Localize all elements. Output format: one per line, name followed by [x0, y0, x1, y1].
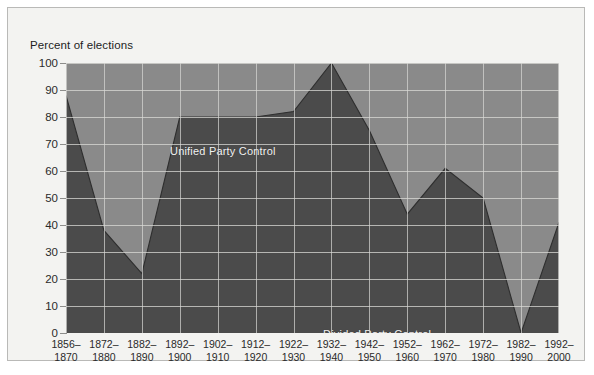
chart-figure: Percent of elections 0102030405060708090… — [7, 7, 585, 361]
gridline-vertical — [142, 63, 143, 333]
x-axis-tick-label: 1932–1940 — [317, 338, 346, 363]
x-tick-line-2: 1940 — [317, 351, 346, 364]
gridline-vertical — [180, 63, 181, 333]
y-axis-tick-label: 30 — [45, 246, 58, 258]
y-axis-tick-label: 100 — [39, 57, 58, 69]
x-axis-tick-label: 1952–1960 — [393, 338, 422, 363]
x-tick-line-2: 1950 — [355, 351, 384, 364]
x-tick-line-2: 1960 — [393, 351, 422, 364]
gridline-horizontal — [66, 225, 559, 226]
x-axis-tick-label: 1982–1990 — [506, 338, 535, 363]
x-tick-line-2: 1980 — [469, 351, 498, 364]
x-tick-line-2: 1930 — [279, 351, 308, 364]
x-tick-line-1: 1912– — [241, 338, 270, 351]
x-axis-tick-label: 1892–1900 — [165, 338, 194, 363]
gridline-horizontal — [66, 252, 559, 253]
x-tick-line-1: 1872– — [89, 338, 118, 351]
gridline-vertical — [407, 63, 408, 333]
gridline-vertical — [558, 63, 559, 333]
x-tick-line-2: 1890 — [127, 351, 156, 364]
gridline-vertical — [369, 63, 370, 333]
gridline-vertical — [445, 63, 446, 333]
x-axis-tick-labels: 1856–18701872–18801882–18901892–19001902… — [66, 338, 559, 370]
x-tick-line-2: 1920 — [241, 351, 270, 364]
y-axis-tick-label: 10 — [45, 300, 58, 312]
gridline-vertical — [256, 63, 257, 333]
gridline-horizontal — [66, 198, 559, 199]
x-axis-tick-label: 1856–1870 — [51, 338, 80, 363]
x-tick-line-1: 1942– — [355, 338, 384, 351]
x-tick-line-2: 1870 — [51, 351, 80, 364]
x-tick-line-1: 1952– — [393, 338, 422, 351]
gridline-vertical — [483, 63, 484, 333]
gridline-vertical — [521, 63, 522, 333]
x-axis-tick-label: 1912–1920 — [241, 338, 270, 363]
gridline-horizontal — [66, 171, 559, 172]
gridline-horizontal — [66, 63, 559, 64]
x-axis-tick-label: 1922–1930 — [279, 338, 308, 363]
x-tick-line-1: 1856– — [51, 338, 80, 351]
x-axis-tick-label: 1882–1890 — [127, 338, 156, 363]
x-tick-line-2: 1900 — [165, 351, 194, 364]
x-tick-line-2: 1970 — [431, 351, 460, 364]
gridline-horizontal — [66, 117, 559, 118]
gridline-horizontal — [66, 144, 559, 145]
x-tick-line-1: 1982– — [506, 338, 535, 351]
x-tick-line-1: 1932– — [317, 338, 346, 351]
gridline-vertical — [331, 63, 332, 333]
x-tick-line-1: 1902– — [203, 338, 232, 351]
x-tick-line-1: 1992– — [544, 338, 573, 351]
unified-party-control-label: Unified Party Control — [170, 145, 276, 157]
y-axis-tick-label: 20 — [45, 273, 58, 285]
y-axis-title: Percent of elections — [30, 39, 133, 51]
x-tick-line-1: 1962– — [431, 338, 460, 351]
gridline-vertical — [66, 63, 67, 333]
x-axis-tick-label: 1962–1970 — [431, 338, 460, 363]
x-tick-line-2: 1880 — [89, 351, 118, 364]
x-tick-line-2: 1910 — [203, 351, 232, 364]
y-axis-tick-label: 50 — [45, 192, 58, 204]
x-tick-line-2: 2000 — [544, 351, 573, 364]
y-axis-tick-label: 70 — [45, 138, 58, 150]
y-axis-tick-mark — [60, 333, 67, 334]
y-axis-tick-label: 40 — [45, 219, 58, 231]
gridline-horizontal — [66, 306, 559, 307]
x-tick-line-1: 1922– — [279, 338, 308, 351]
x-tick-line-1: 1882– — [127, 338, 156, 351]
y-axis-tick-label: 90 — [45, 84, 58, 96]
gridline-vertical — [104, 63, 105, 333]
plot-area: Unified Party Control Divided Party Cont… — [66, 63, 559, 333]
y-axis-tick-labels: 0102030405060708090100 — [8, 63, 58, 333]
x-axis-tick-label: 1902–1910 — [203, 338, 232, 363]
gridline-vertical — [218, 63, 219, 333]
x-tick-line-2: 1990 — [506, 351, 535, 364]
gridline-vertical — [294, 63, 295, 333]
x-axis-tick-label: 1992–2000 — [544, 338, 573, 363]
x-tick-line-1: 1892– — [165, 338, 194, 351]
y-axis-tick-label: 60 — [45, 165, 58, 177]
x-tick-line-1: 1972– — [469, 338, 498, 351]
x-axis-tick-label: 1942–1950 — [355, 338, 384, 363]
x-axis-tick-label: 1972–1980 — [469, 338, 498, 363]
gridline-horizontal — [66, 90, 559, 91]
y-axis-tick-label: 80 — [45, 111, 58, 123]
x-axis-tick-label: 1872–1880 — [89, 338, 118, 363]
gridline-horizontal — [66, 279, 559, 280]
